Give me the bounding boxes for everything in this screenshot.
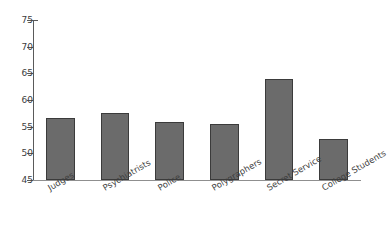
bar (155, 122, 183, 180)
y-axis-line (33, 20, 34, 181)
y-tick-label: 55 (9, 122, 33, 132)
y-tick-label: 70 (9, 42, 33, 52)
bar (265, 79, 293, 180)
y-axis-top-cap (33, 20, 38, 21)
y-tick-label: 60 (9, 95, 33, 105)
x-axis-line (33, 180, 361, 181)
y-tick-label: 65 (9, 68, 33, 78)
y-tick-label: 50 (9, 148, 33, 158)
y-tick-label: 75 (9, 15, 33, 25)
y-tick-label: 45 (9, 175, 33, 185)
